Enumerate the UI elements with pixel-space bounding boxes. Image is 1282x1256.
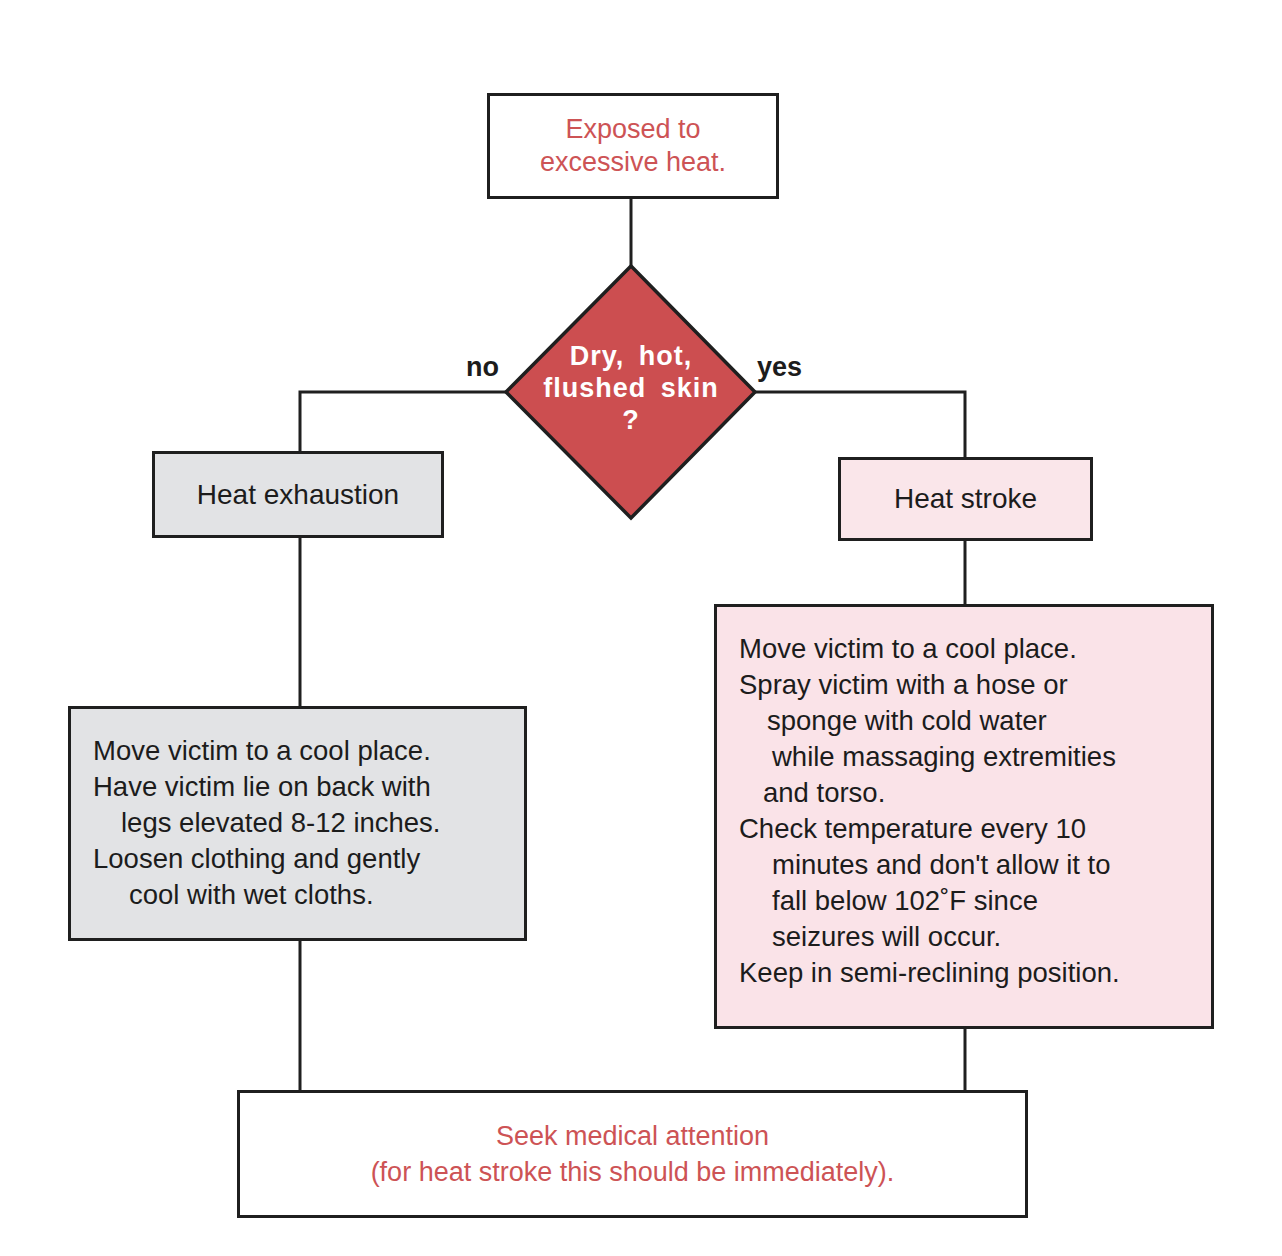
end-text-line: (for heat stroke this should be immediat…: [371, 1154, 895, 1190]
treatment-step: minutes and don't allow it to: [739, 847, 1211, 883]
treatment-step: Loosen clothing and gently: [93, 841, 524, 877]
treatment-step: Move victim to a cool place.: [739, 631, 1211, 667]
heat-exhaustion-treatment: Move victim to a cool place. Have victim…: [68, 706, 527, 941]
decision-text-line: Dry, hot,: [506, 340, 756, 372]
heat-stroke-treatment: Move victim to a cool place. Spray victi…: [714, 604, 1214, 1029]
treatment-step: cool with wet cloths.: [93, 877, 524, 913]
treatment-step: fall below 102˚F since: [739, 883, 1211, 919]
treatment-step: sponge with cold water: [739, 703, 1211, 739]
treatment-step: legs elevated 8-12 inches.: [93, 805, 524, 841]
treatment-step: Keep in semi-reclining position.: [739, 955, 1211, 991]
treatment-step: Check temperature every 10: [739, 811, 1211, 847]
treatment-step: seizures will occur.: [739, 919, 1211, 955]
heat-illness-flowchart: Exposed to excessive heat. Dry, hot, flu…: [0, 0, 1282, 1256]
yes-branch-label: yes: [757, 352, 802, 383]
connector-yes-branch: [755, 392, 965, 458]
treatment-step: while massaging extremities: [739, 739, 1211, 775]
heat-exhaustion-node: Heat exhaustion: [152, 451, 444, 538]
start-text-line: Exposed to: [565, 113, 700, 146]
treatment-step: and torso.: [739, 775, 1211, 811]
decision-text-line: ?: [506, 404, 756, 436]
treatment-step: Move victim to a cool place.: [93, 733, 524, 769]
treatment-step: Spray victim with a hose or: [739, 667, 1211, 703]
start-text-line: excessive heat.: [540, 146, 726, 179]
decision-text-line: flushed skin: [506, 372, 756, 404]
no-branch-label: no: [466, 352, 499, 383]
connector-no-branch: [300, 392, 506, 452]
heat-stroke-node: Heat stroke: [838, 457, 1093, 541]
end-text-line: Seek medical attention: [496, 1118, 769, 1154]
end-node: Seek medical attention (for heat stroke …: [237, 1090, 1028, 1218]
decision-question: Dry, hot, flushed skin ?: [506, 340, 756, 436]
heat-stroke-title: Heat stroke: [894, 483, 1037, 515]
start-node: Exposed to excessive heat.: [487, 93, 779, 199]
heat-exhaustion-title: Heat exhaustion: [197, 479, 399, 511]
treatment-step: Have victim lie on back with: [93, 769, 524, 805]
